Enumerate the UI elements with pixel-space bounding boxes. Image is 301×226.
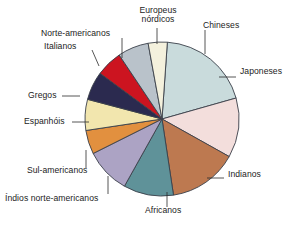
pie-label-indios-norte-americanos: Índios norte-americanos [5,194,98,204]
pie-label-espanhois: Espanhóis [24,117,65,127]
pie-label-indianos: Indianos [228,170,261,180]
pie-label-italianos: Italianos [44,42,76,52]
pie-label-africanos: Africanos [145,206,181,216]
pie-label-gregos: Gregos [28,91,56,101]
pie-label-europeus-nordicos: Europeus nórdicos [128,6,188,25]
pie-label-europeus-nordicos-line2: nórdicos [142,14,175,24]
pie-label-norte-americanos: Norte-americanos [41,29,110,39]
pie-chart-figure: Europeus nórdicos Chineses Japoneses Ind… [0,0,301,226]
pie-slices [85,42,239,196]
leader-line-italianos [92,50,99,66]
pie-label-japoneses: Japoneses [240,67,282,77]
pie-label-sul-americanos: Sul-americanos [27,166,87,176]
pie-label-chineses: Chineses [203,21,239,31]
